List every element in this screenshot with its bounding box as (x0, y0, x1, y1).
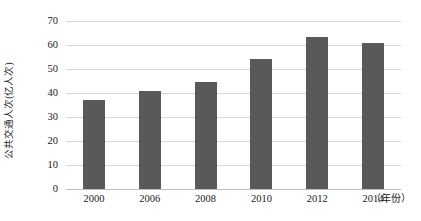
plot-area (66, 21, 401, 189)
x-tick-label: 2006 (120, 193, 180, 206)
y-tick-label: 70 (22, 16, 58, 27)
x-tick-label: 2010 (231, 193, 291, 206)
x-tick-label: 2000 (64, 193, 124, 206)
y-tick-label: 50 (22, 64, 58, 75)
y-tick-label: 30 (22, 112, 58, 123)
y-tick-label: 60 (22, 40, 58, 51)
gridline (66, 189, 401, 190)
x-tick-label: 2012 (287, 193, 347, 206)
bar (83, 100, 105, 189)
bar-chart: 公共交通人次(亿人次) 010203040506070 200020062008… (0, 0, 421, 221)
x-axis-tick-labels: 200020062008201020122014 (66, 193, 401, 209)
y-tick-label: 10 (22, 160, 58, 171)
x-axis-title: （年份） (371, 193, 411, 205)
bars-layer (66, 21, 401, 189)
y-tick-label: 40 (22, 88, 58, 99)
y-axis-title: 公共交通人次(亿人次) (0, 0, 16, 221)
y-tick-label: 0 (22, 184, 58, 195)
bar (250, 59, 272, 189)
y-tick-label: 20 (22, 136, 58, 147)
bar (139, 91, 161, 189)
x-tick-label: 2008 (176, 193, 236, 206)
bar (306, 37, 328, 189)
bar (195, 82, 217, 189)
bar (362, 43, 384, 189)
